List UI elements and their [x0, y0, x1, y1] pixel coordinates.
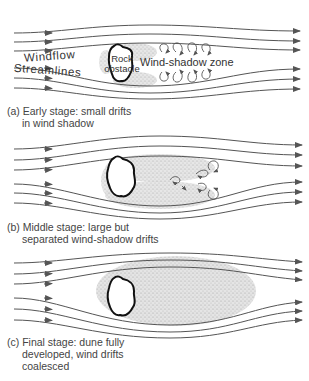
rock-obstacle-c — [108, 276, 135, 315]
caption-c-line2: developed, wind drifts — [7, 348, 124, 360]
wind-shadow-zone-label: Wind-shadow zone — [140, 56, 234, 68]
rock-obstacle-b — [107, 156, 135, 196]
caption-a-line1: (a) Early stage: small drifts — [7, 105, 131, 117]
caption-b: (b) Middle stage: large but separated wi… — [7, 221, 159, 245]
caption-c-line1: (c) Final stage: dune fully — [7, 336, 124, 348]
rock-label-line2: obstacle — [104, 64, 140, 74]
caption-a: (a) Early stage: small drifts in wind sh… — [7, 105, 131, 129]
panel-b — [14, 136, 302, 219]
caption-c-line3: coalesced — [7, 360, 124, 372]
caption-c: (c) Final stage: dune fully developed, w… — [7, 336, 124, 372]
caption-b-line1: (b) Middle stage: large but — [7, 221, 129, 233]
rock-obstacle-label: Rock obstacle — [104, 54, 140, 74]
panel-c — [14, 253, 302, 338]
caption-a-line2: in wind shadow — [7, 117, 131, 129]
caption-b-line2: separated wind-shadow drifts — [7, 233, 159, 245]
